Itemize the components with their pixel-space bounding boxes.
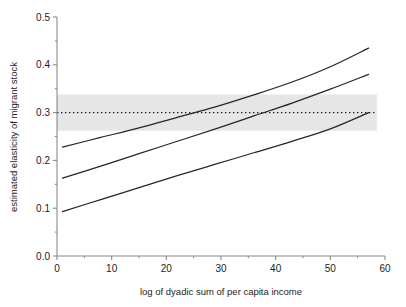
x-tick-label: 20 [161, 263, 173, 274]
y-axis-ticks [53, 17, 57, 256]
x-axis-ticks [57, 256, 385, 260]
x-tick-label: 60 [379, 263, 391, 274]
y-axis-title: estimated elasticity of migrant stock [8, 62, 19, 212]
x-tick-label: 0 [54, 263, 60, 274]
x-tick-label: 10 [106, 263, 118, 274]
y-tick-label: 0.0 [36, 251, 50, 262]
y-tick-label: 0.1 [36, 203, 50, 214]
x-axis-tick-labels: 0102030405060 [54, 263, 391, 274]
chart-plot-area: 0.00.10.20.30.40.5 0102030405060 log of … [0, 0, 406, 307]
x-tick-label: 40 [270, 263, 282, 274]
y-tick-label: 0.2 [36, 155, 50, 166]
chart-figure: 0.00.10.20.30.40.5 0102030405060 log of … [0, 0, 406, 307]
x-axis-title: log of dyadic sum of per capita income [140, 286, 302, 297]
y-tick-label: 0.3 [36, 107, 50, 118]
y-tick-label: 0.5 [36, 12, 50, 23]
reference-band [57, 94, 377, 130]
y-axis-tick-labels: 0.00.10.20.30.40.5 [36, 12, 50, 262]
y-tick-label: 0.4 [36, 59, 50, 70]
x-tick-label: 50 [325, 263, 337, 274]
x-tick-label: 30 [215, 263, 227, 274]
